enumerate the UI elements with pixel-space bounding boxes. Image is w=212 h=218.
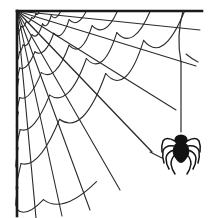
artwork-canvas bbox=[0, 0, 212, 218]
spider-web-illustration bbox=[0, 0, 212, 218]
background-rect bbox=[0, 0, 212, 218]
